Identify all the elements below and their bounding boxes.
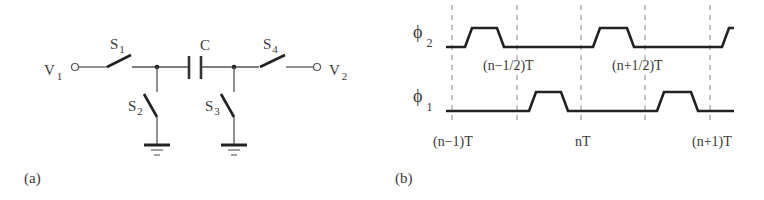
switch-s3-icon	[221, 94, 234, 117]
switch-s1-icon	[107, 55, 131, 67]
v1-terminal-icon	[72, 64, 79, 71]
switch-s2-icon	[144, 94, 157, 117]
figure-canvas: V1 S1 C S4 V2 S2	[0, 0, 764, 200]
s3-label: S3	[205, 98, 220, 117]
phi2-label: ϕ2	[413, 22, 432, 50]
switched-capacitor-circuit: V1 S1 C S4 V2 S2	[24, 36, 347, 187]
s4-label: S4	[263, 36, 278, 55]
panel-b-caption: (b)	[395, 170, 413, 187]
v2-terminal-icon	[314, 64, 321, 71]
time-label-n-plus-half: (n+1/2)T	[612, 58, 663, 74]
time-label-n-plus-1: (n+1)T	[692, 134, 732, 150]
v1-label: V1	[44, 62, 62, 82]
ground-icon	[144, 145, 170, 155]
phi1-label: ϕ1	[413, 86, 432, 114]
panel-a-caption: (a)	[24, 170, 41, 187]
v2-label: V2	[329, 62, 347, 82]
clock-timing-diagram: ϕ2 ϕ1 (n−1/2)T (n+1/2)T (n−1)T nT (n+1)T…	[395, 5, 734, 187]
switch-s4-icon	[260, 55, 285, 67]
s2-label: S2	[128, 98, 143, 117]
phi1-waveform	[446, 92, 734, 111]
time-label-n: nT	[575, 134, 591, 149]
phi2-waveform	[446, 28, 734, 47]
ground-icon	[221, 145, 247, 155]
capacitor-label: C	[200, 37, 210, 53]
time-label-n-minus-half: (n−1/2)T	[483, 58, 534, 74]
s1-label: S1	[110, 36, 125, 55]
time-label-n-minus-1: (n−1)T	[433, 134, 473, 150]
